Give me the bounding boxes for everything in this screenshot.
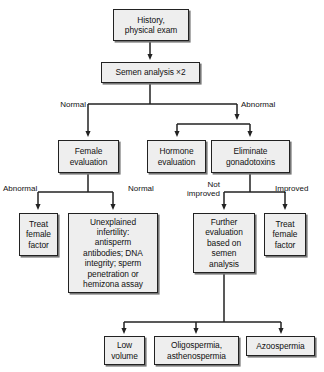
node-hormone-evaluation: Hormone evaluation xyxy=(147,140,206,173)
edge-label-normal-top: Normal xyxy=(44,100,86,109)
node-oligospermia: Oligospermia, asthenospermia xyxy=(154,336,239,365)
edge-label-normal-female: Normal xyxy=(128,184,168,193)
edge-label-not-improved: Not improved xyxy=(174,180,220,199)
node-treat-female-factor-left: Treat female factor xyxy=(19,213,58,256)
node-treat-female-factor-right: Treat female factor xyxy=(264,213,306,256)
node-azoospermia: Azoospermia xyxy=(246,336,315,356)
edge-label-abnormal-top: Abnormal xyxy=(241,100,291,109)
node-semen-analysis: Semen analysis ×2 xyxy=(101,62,200,83)
node-history: History, physical exam xyxy=(113,9,189,41)
node-unexplained-infertility: Unexplained infertility: antisperm antib… xyxy=(68,213,158,293)
node-female-evaluation: Female evaluation xyxy=(58,140,119,173)
node-eliminate-gonadotoxins: Eliminate gonadotoxins xyxy=(211,140,290,173)
node-low-volume: Low volume xyxy=(104,336,145,365)
edge-label-abnormal-female: Abnormal xyxy=(3,184,47,193)
edge-label-improved: Improved xyxy=(275,184,323,193)
node-further-evaluation: Further evaluation based on semen analys… xyxy=(193,213,255,273)
flowchart-canvas: History, physical exam Semen analysis ×2… xyxy=(0,0,324,372)
